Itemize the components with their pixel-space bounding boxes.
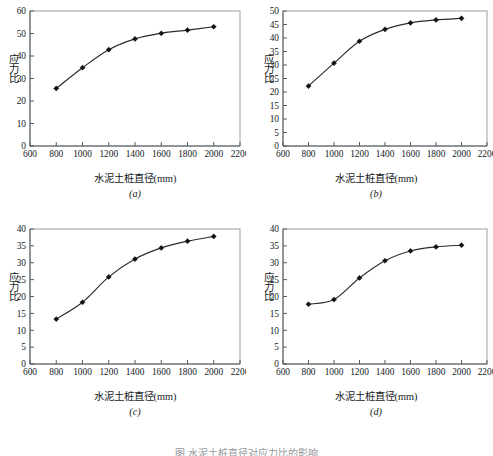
svg-text:800: 800 <box>301 149 315 159</box>
chart-panel-c: 6008001000120014001600180020002200051015… <box>0 220 246 438</box>
chart-panel-a: 6008001000120014001600180020002200010203… <box>0 2 246 220</box>
svg-text:1200: 1200 <box>99 149 118 159</box>
svg-text:35: 35 <box>270 241 280 251</box>
svg-text:1200: 1200 <box>350 367 369 377</box>
svg-text:15: 15 <box>270 309 280 319</box>
svg-text:10: 10 <box>17 119 27 129</box>
svg-text:50: 50 <box>17 29 27 39</box>
svg-text:30: 30 <box>270 258 280 268</box>
plot-area-d: 6008001000120014001600180020002200051015… <box>247 220 493 390</box>
svg-text:2200: 2200 <box>478 367 493 377</box>
y-axis-label-a: 应力比 <box>5 54 20 83</box>
svg-text:10: 10 <box>270 326 280 336</box>
svg-text:40: 40 <box>270 224 280 234</box>
svg-text:15: 15 <box>270 101 280 111</box>
svg-text:2200: 2200 <box>478 149 493 159</box>
svg-text:800: 800 <box>49 367 63 377</box>
svg-text:1400: 1400 <box>376 367 395 377</box>
svg-text:2200: 2200 <box>231 149 246 159</box>
svg-text:20: 20 <box>17 96 27 106</box>
svg-text:2000: 2000 <box>452 367 471 377</box>
svg-text:10: 10 <box>17 326 27 336</box>
svg-text:800: 800 <box>49 149 63 159</box>
svg-text:1800: 1800 <box>427 149 446 159</box>
svg-text:2000: 2000 <box>452 149 471 159</box>
svg-text:5: 5 <box>21 342 26 352</box>
plot-area-a: 6008001000120014001600180020002200010203… <box>0 2 246 172</box>
figure-container: 6008001000120014001600180020002200010203… <box>0 0 493 456</box>
svg-text:15: 15 <box>17 309 27 319</box>
chart-svg-b: 6008001000120014001600180020002200051015… <box>247 2 493 172</box>
svg-text:20: 20 <box>270 87 280 97</box>
svg-text:1000: 1000 <box>73 149 92 159</box>
chart-panel-b: 6008001000120014001600180020002200051015… <box>247 2 493 220</box>
svg-text:2000: 2000 <box>204 149 223 159</box>
panel-tag-d: (d) <box>247 406 493 417</box>
svg-text:35: 35 <box>17 241 27 251</box>
svg-text:0: 0 <box>21 141 26 151</box>
svg-text:5: 5 <box>274 128 279 138</box>
x-axis-label-a: 水泥土桩直径(mm) <box>0 170 258 185</box>
svg-text:2000: 2000 <box>204 367 223 377</box>
panel-tag-c: (c) <box>0 406 258 417</box>
svg-text:5: 5 <box>274 342 279 352</box>
svg-text:10: 10 <box>270 114 280 124</box>
svg-text:45: 45 <box>270 20 280 30</box>
svg-text:800: 800 <box>301 367 315 377</box>
y-axis-label-c: 应力比 <box>5 272 20 301</box>
svg-text:1200: 1200 <box>99 367 118 377</box>
svg-text:40: 40 <box>17 224 27 234</box>
y-axis-label-d: 应力比 <box>260 272 275 301</box>
svg-text:30: 30 <box>17 258 27 268</box>
svg-text:1000: 1000 <box>325 367 344 377</box>
svg-text:50: 50 <box>270 6 280 16</box>
svg-text:0: 0 <box>274 141 279 151</box>
plot-area-b: 6008001000120014001600180020002200051015… <box>247 2 493 172</box>
chart-svg-d: 6008001000120014001600180020002200051015… <box>247 220 493 390</box>
svg-text:1200: 1200 <box>350 149 369 159</box>
svg-text:1600: 1600 <box>401 367 420 377</box>
svg-text:0: 0 <box>274 359 279 369</box>
figure-caption: 图 水泥土桩直径对应力比的影响 <box>0 445 493 456</box>
chart-panel-d: 6008001000120014001600180020002200051015… <box>247 220 493 438</box>
x-axis-label-b: 水泥土桩直径(mm) <box>247 170 493 185</box>
panel-tag-a: (a) <box>0 188 258 199</box>
svg-text:1400: 1400 <box>126 149 145 159</box>
chart-svg-c: 6008001000120014001600180020002200051015… <box>0 220 246 390</box>
svg-text:1800: 1800 <box>178 367 197 377</box>
svg-text:1400: 1400 <box>376 149 395 159</box>
chart-svg-a: 6008001000120014001600180020002200010203… <box>0 2 246 172</box>
svg-text:1600: 1600 <box>401 149 420 159</box>
svg-text:1600: 1600 <box>152 367 171 377</box>
x-axis-label-c: 水泥土桩直径(mm) <box>0 388 258 403</box>
svg-text:0: 0 <box>21 359 26 369</box>
y-axis-label-b: 应力比 <box>260 54 275 83</box>
x-axis-label-d: 水泥土桩直径(mm) <box>247 388 493 403</box>
svg-text:1400: 1400 <box>126 367 145 377</box>
svg-text:1600: 1600 <box>152 149 171 159</box>
svg-text:1000: 1000 <box>325 149 344 159</box>
plot-area-c: 6008001000120014001600180020002200051015… <box>0 220 246 390</box>
panel-tag-b: (b) <box>247 188 493 199</box>
svg-text:40: 40 <box>270 33 280 43</box>
svg-text:1800: 1800 <box>178 149 197 159</box>
svg-text:60: 60 <box>17 6 27 16</box>
svg-text:1800: 1800 <box>427 367 446 377</box>
svg-text:1000: 1000 <box>73 367 92 377</box>
svg-text:2200: 2200 <box>231 367 246 377</box>
